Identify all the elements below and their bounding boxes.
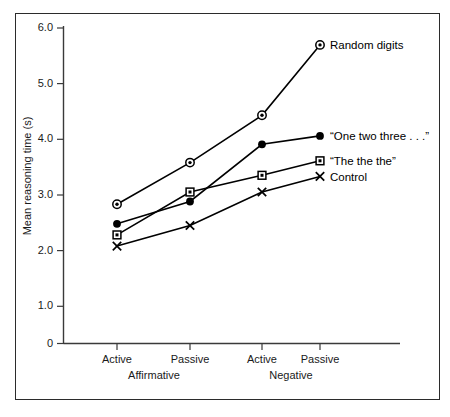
legend-label-control: Control	[330, 171, 367, 183]
x-tick-label-passive-affirmative: Passive	[155, 354, 225, 365]
series-the-the-the	[113, 157, 324, 239]
axis-lines	[64, 26, 401, 344]
x-tick-label-passive-negative: Passive	[285, 354, 355, 365]
x-group-label-negative: Negative	[236, 369, 346, 381]
y-tick-label-2: 2.0	[19, 245, 53, 256]
x-tick-label-active-affirmative: Active	[82, 354, 152, 365]
series-one-two-three	[113, 132, 324, 228]
marker-square-dot-icon	[113, 157, 324, 239]
y-tick-label-0: 0	[19, 338, 53, 349]
y-tick-label-1: 1.0	[19, 300, 53, 311]
legend-label-the-the-the: “The the the”	[330, 155, 396, 167]
x-group-label-affirmative: Affirmative	[99, 369, 209, 381]
series-line-one-two-three	[117, 136, 320, 224]
legend-label-random-digits: Random digits	[330, 39, 404, 51]
series-control	[113, 172, 324, 250]
y-tick-label-6: 6.0	[19, 22, 53, 33]
series-line-random-digits	[117, 45, 320, 204]
line-chart-plot	[0, 0, 450, 417]
y-axis-label: Mean reasoning time (s)	[21, 106, 33, 246]
y-tick-label-5: 5.0	[19, 78, 53, 89]
series-line-the-the-the	[117, 161, 320, 235]
figure-container: 6.0 5.0 4.0 3.0 2.0 1.0 0 Mean reasoning…	[0, 0, 450, 417]
legend-label-one-two-three: “One two three . . .”	[330, 130, 429, 142]
x-axis-ticks	[117, 344, 320, 351]
y-axis-ticks	[57, 28, 64, 344]
